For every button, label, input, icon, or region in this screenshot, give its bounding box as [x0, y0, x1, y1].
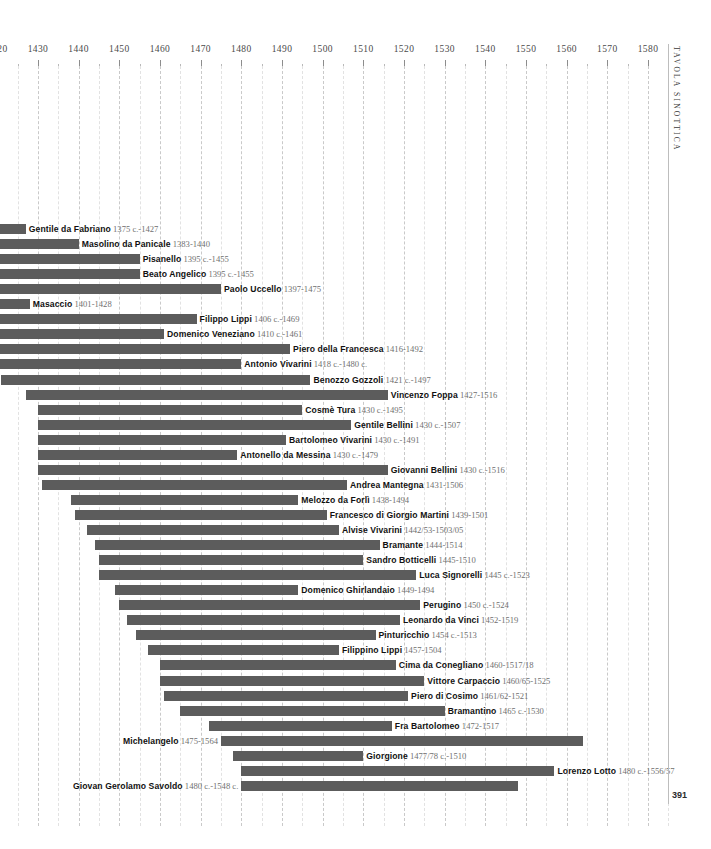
lifespan-bar[interactable]	[0, 359, 241, 369]
lifespan-bar[interactable]	[221, 736, 583, 746]
table-row[interactable]: Giovanni Bellini 1430 c.-1516	[0, 463, 668, 479]
table-row[interactable]: Piero della Francesca 1416-1492	[0, 342, 668, 358]
table-row[interactable]: Melozzo da Forlì 1438-1494	[0, 493, 668, 509]
table-row[interactable]: Bramantino 1465 c.-1530	[0, 704, 668, 720]
lifespan-bar[interactable]	[0, 314, 197, 324]
lifespan-bar[interactable]	[87, 525, 339, 535]
artist-dates: 1383-1440	[171, 239, 210, 249]
artist-name: Gentile da Fabriano	[29, 224, 111, 234]
artist-label: Melozzo da Forlì 1438-1494	[298, 494, 409, 506]
lifespan-bar[interactable]	[241, 766, 554, 776]
table-row[interactable]: Gentile Bellini 1430 c.-1507	[0, 418, 668, 434]
table-row[interactable]: Alvise Vivarini 1442/53-1503/05	[0, 523, 668, 539]
table-row[interactable]: Giovan Gerolamo Savoldo 1480 c.-1548 c.	[0, 779, 668, 795]
lifespan-bar[interactable]	[95, 540, 380, 550]
table-row[interactable]: Antonio Vivarini 1418 c.-1480 c.	[0, 357, 668, 373]
table-row[interactable]: Bramante 1444-1514	[0, 538, 668, 554]
table-row[interactable]: Paolo Uccello 1397-1475	[0, 282, 668, 298]
lifespan-bar[interactable]	[0, 224, 26, 234]
artist-dates: 1431-1506	[424, 480, 463, 490]
table-row[interactable]: Perugino 1450 c.-1524	[0, 598, 668, 614]
artist-name: Francesco di Giorgio Martini	[330, 510, 449, 520]
lifespan-bar[interactable]	[233, 751, 363, 761]
table-row[interactable]: Lorenzo Lotto 1480 c.-1556/57	[0, 764, 668, 780]
lifespan-bar[interactable]	[26, 390, 388, 400]
table-row[interactable]: Leonardo da Vinci 1452-1519	[0, 613, 668, 629]
lifespan-bar[interactable]	[148, 645, 339, 655]
artist-name: Giovan Gerolamo Savoldo	[73, 781, 183, 791]
table-row[interactable]: Giorgione 1477/78 c.-1510	[0, 749, 668, 765]
lifespan-bar[interactable]	[127, 615, 399, 625]
lifespan-bar[interactable]	[38, 450, 237, 460]
artist-label: Cosmè Tura 1430 c.-1495	[302, 404, 403, 416]
table-row[interactable]: Luca Signorelli 1445 c.-1523	[0, 568, 668, 584]
table-row[interactable]: Beato Angelico 1395 c.-1455	[0, 267, 668, 283]
lifespan-bar[interactable]	[99, 570, 416, 580]
lifespan-bar[interactable]	[0, 269, 140, 279]
lifespan-bar[interactable]	[38, 465, 388, 475]
artist-dates: 1445-1510	[436, 555, 475, 565]
table-row[interactable]: Gentile da Fabriano 1375 c.-1427	[0, 222, 668, 238]
artist-label: Domenico Ghirlandaio 1449-1494	[298, 584, 434, 596]
table-row[interactable]: Andrea Mantegna 1431-1506	[0, 478, 668, 494]
table-row[interactable]: Cosmè Tura 1430 c.-1495	[0, 403, 668, 419]
table-row[interactable]: Michelangelo 1475-1564	[0, 734, 668, 750]
lifespan-bar[interactable]	[71, 495, 299, 505]
artist-dates: 1457-1504	[402, 645, 441, 655]
table-row[interactable]: Benozzo Gozzoli 1421 c.-1497	[0, 373, 668, 389]
lifespan-bar[interactable]	[160, 676, 424, 686]
artist-dates: 1477/78 c.-1510	[408, 751, 466, 761]
artist-label: Cima da Conegliano 1460-1517/18	[396, 659, 534, 671]
artist-label: Francesco di Giorgio Martini 1439-1501	[327, 509, 489, 521]
artist-dates: 1445 c.-1523	[482, 570, 530, 580]
table-row[interactable]: Pisanello 1395 c.-1455	[0, 252, 668, 268]
artist-name: Andrea Mantegna	[350, 480, 424, 490]
lifespan-bar[interactable]	[0, 344, 290, 354]
artist-dates: 1452-1519	[479, 615, 518, 625]
lifespan-bar[interactable]	[136, 630, 376, 640]
table-row[interactable]: Sandro Botticelli 1445-1510	[0, 553, 668, 569]
lifespan-bar[interactable]	[99, 555, 363, 565]
lifespan-bar[interactable]	[75, 510, 327, 520]
artist-name: Masaccio	[33, 299, 73, 309]
lifespan-bar[interactable]	[0, 299, 30, 309]
lifespan-bar[interactable]	[180, 706, 444, 716]
lifespan-bar[interactable]	[119, 600, 420, 610]
artist-dates: 1472-1517	[460, 721, 499, 731]
lifespan-bar[interactable]	[241, 781, 518, 791]
lifespan-bar[interactable]	[115, 585, 298, 595]
artist-dates: 1401-1428	[72, 299, 111, 309]
table-row[interactable]: Cima da Conegliano 1460-1517/18	[0, 658, 668, 674]
table-row[interactable]: Antonello da Messina 1430 c.-1479	[0, 448, 668, 464]
lifespan-bar[interactable]	[38, 435, 286, 445]
table-row[interactable]: Fra Bartolomeo 1472-1517	[0, 719, 668, 735]
artist-label: Gentile da Fabriano 1375 c.-1427	[26, 223, 159, 235]
lifespan-bar[interactable]	[38, 405, 302, 415]
table-row[interactable]: Vincenzo Foppa 1427-1516	[0, 388, 668, 404]
lifespan-bar[interactable]	[42, 480, 347, 490]
lifespan-bar[interactable]	[38, 420, 351, 430]
table-row[interactable]: Piero di Cosimo 1461/62-1521	[0, 689, 668, 705]
lifespan-bar[interactable]	[160, 660, 396, 670]
lifespan-bar[interactable]	[0, 239, 79, 249]
timeline-page: 1420143014401450146014701480149015001510…	[0, 0, 711, 849]
lifespan-bar[interactable]	[209, 721, 392, 731]
lifespan-bar[interactable]	[0, 284, 221, 294]
table-row[interactable]: Domenico Veneziano 1410 c.-1461	[0, 327, 668, 343]
table-row[interactable]: Francesco di Giorgio Martini 1439-1501	[0, 508, 668, 524]
lifespan-bar[interactable]	[1, 375, 310, 385]
lifespan-bar[interactable]	[0, 254, 140, 264]
table-row[interactable]: Bartolomeo Vivarini 1430 c.-1491	[0, 433, 668, 449]
table-row[interactable]: Domenico Ghirlandaio 1449-1494	[0, 583, 668, 599]
table-row[interactable]: Filippino Lippi 1457-1504	[0, 643, 668, 659]
table-row[interactable]: Filippo Lippi 1406 c.-1469	[0, 312, 668, 328]
lifespan-bar[interactable]	[0, 329, 164, 339]
artist-label: Masolino da Panicale 1383-1440	[79, 238, 210, 250]
table-row[interactable]: Masolino da Panicale 1383-1440	[0, 237, 668, 253]
table-row[interactable]: Vittore Carpaccio 1460/65-1525	[0, 674, 668, 690]
artist-name: Vincenzo Foppa	[391, 390, 458, 400]
table-row[interactable]: Pinturicchio 1454 c.-1513	[0, 628, 668, 644]
artist-name: Melozzo da Forlì	[301, 495, 369, 505]
lifespan-bar[interactable]	[164, 691, 408, 701]
table-row[interactable]: Masaccio 1401-1428	[0, 297, 668, 313]
